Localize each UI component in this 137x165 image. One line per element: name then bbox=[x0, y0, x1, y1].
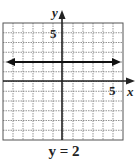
equation-caption: y = 2 bbox=[0, 143, 128, 160]
y-axis-label: y bbox=[50, 5, 58, 20]
line-right-arrow-icon bbox=[112, 58, 121, 66]
x-axis-label: x bbox=[126, 84, 134, 99]
coordinate-plane: y 5 5 x bbox=[0, 0, 137, 165]
y-tick-label: 5 bbox=[50, 26, 57, 41]
line-left-arrow-icon bbox=[6, 58, 15, 66]
x-tick-label: 5 bbox=[109, 83, 116, 98]
y-axis-arrow-icon bbox=[59, 10, 66, 19]
